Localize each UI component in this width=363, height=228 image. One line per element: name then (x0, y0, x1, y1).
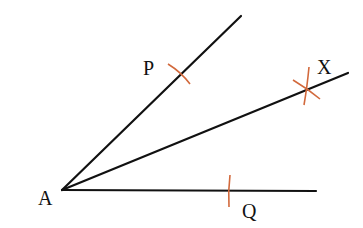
angle-bisector-diagram: A P X Q (0, 0, 363, 228)
label-p: P (143, 58, 154, 78)
ray-ax-bisector (62, 73, 348, 190)
ray-ap (62, 16, 241, 190)
label-x: X (317, 57, 331, 77)
label-q: Q (242, 201, 256, 221)
arc-mark-p (168, 64, 190, 84)
label-a: A (38, 188, 52, 208)
diagram-svg (0, 0, 363, 228)
arc-mark-x-1 (304, 67, 309, 105)
ray-aq (62, 190, 316, 191)
